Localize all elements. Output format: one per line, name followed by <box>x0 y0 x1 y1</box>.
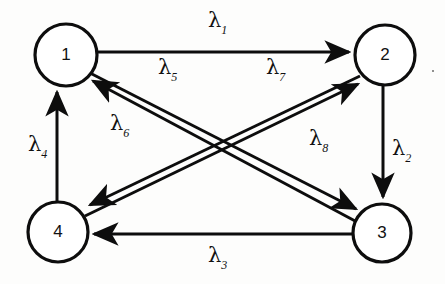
lambda-subscript: 7 <box>279 70 285 84</box>
lambda-subscript: 6 <box>123 126 129 140</box>
node-3-label: 3 <box>377 223 386 242</box>
lambda-glyph: λ <box>266 55 279 79</box>
edge-label-lambda-7: λ7 <box>266 57 285 80</box>
edge-label-lambda-5: λ5 <box>158 57 177 80</box>
lambda-subscript: 1 <box>221 23 227 37</box>
lambda-subscript: 5 <box>171 70 177 84</box>
lambda-glyph: λ <box>309 126 322 150</box>
lambda-subscript: 2 <box>405 151 411 165</box>
edge-label-lambda-4: λ4 <box>28 134 47 157</box>
lambda-subscript: 3 <box>221 258 227 272</box>
node-4-label: 4 <box>53 222 62 241</box>
node-1-label: 1 <box>61 45 70 64</box>
edge-label-lambda-6: λ6 <box>110 113 129 136</box>
lambda-glyph: λ <box>28 132 41 156</box>
edge-label-lambda-3: λ3 <box>208 245 227 268</box>
edge-label-lambda-2: λ2 <box>392 138 411 161</box>
ink-speck <box>432 70 434 72</box>
lambda-glyph: λ <box>208 8 221 32</box>
lambda-glyph: λ <box>110 111 123 135</box>
lambda-subscript: 8 <box>322 141 328 155</box>
lambda-glyph: λ <box>208 243 221 267</box>
lambda-subscript: 4 <box>41 147 47 161</box>
graph-canvas: 1 2 3 4 <box>0 0 445 284</box>
node-2-label: 2 <box>380 45 389 64</box>
lambda-glyph: λ <box>158 55 171 79</box>
graph-diagram: 1 2 3 4 λ1 λ2 λ3 λ4 λ5 λ6 λ7 λ8 <box>0 0 445 284</box>
edges-group <box>57 52 383 234</box>
lambda-glyph: λ <box>392 136 405 160</box>
edge-label-lambda-1: λ1 <box>208 10 227 33</box>
edge-label-lambda-8: λ8 <box>309 128 328 151</box>
